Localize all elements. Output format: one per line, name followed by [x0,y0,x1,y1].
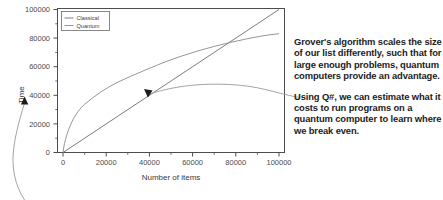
chart-legend: Classical Quantum [62,12,110,31]
x-tick-label: 0 [61,158,65,167]
chart-svg: 100000 80000 60000 40000 20000 0 Time [0,0,300,200]
x-tick-label: 60000 [182,158,203,167]
y-axis-tick-labels: 100000 80000 60000 40000 20000 0 [25,5,50,157]
x-tick-label: 40000 [139,158,160,167]
series-line-quantum [63,34,279,153]
annotation-leader-line [150,84,301,97]
y-axis-callout-curve [13,104,25,200]
y-tick-label: 40000 [29,91,50,100]
x-tick-label: 20000 [96,158,117,167]
legend-label-classical: Classical [77,15,99,21]
y-tick-label: 100000 [25,5,50,14]
annotation-paragraph-1: Grover's algorithm scales the size of ou… [294,36,443,82]
x-tick-label: 100000 [266,158,291,167]
chart-figure: 100000 80000 60000 40000 20000 0 Time [0,0,300,200]
legend-label-quantum: Quantum [77,23,100,29]
x-axis-tick-labels: 0 20000 40000 60000 80000 100000 [61,158,292,167]
series-line-classical [63,10,279,153]
annotation-text-block: Grover's algorithm scales the size of ou… [294,36,443,136]
y-tick-label: 80000 [29,34,50,43]
y-tick-label: 60000 [29,62,50,71]
x-tick-label: 80000 [225,158,246,167]
y-tick-label: 0 [46,148,50,157]
x-axis-title: Number of items [142,173,201,182]
annotation-paragraph-2: Using Q#, we can estimate what it costs … [294,91,443,137]
figure-screenshot: 100000 80000 60000 40000 20000 0 Time [0,0,443,200]
y-tick-label: 20000 [29,120,50,129]
